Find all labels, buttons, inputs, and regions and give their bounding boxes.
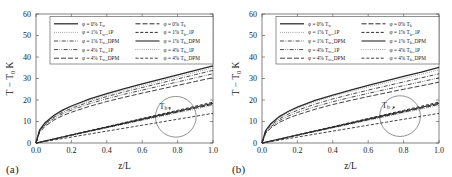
- plot-area-a: 0.00.20.40.60.81.00102030405060z/LT − T0…: [0, 0, 226, 177]
- y-tick-label: 30: [249, 74, 257, 83]
- y-tick-label: 60: [23, 10, 31, 19]
- panel-label-b: (b): [232, 163, 245, 175]
- x-axis-title: z/L: [344, 161, 357, 171]
- panel-label-a: (a): [6, 163, 19, 175]
- figure-two-panel-temperature-plots: 0.00.20.40.60.81.00102030405060z/LT − T0…: [0, 0, 452, 177]
- curve-a-0: [36, 66, 213, 143]
- x-axis-title: z/L: [118, 161, 131, 171]
- x-tick-label: 0.0: [257, 146, 267, 155]
- curve-a-2: [36, 70, 213, 143]
- y-axis-title: T − T0 K: [5, 61, 16, 95]
- curve-b-7: [262, 103, 439, 143]
- annotation-label-tb: Tb: [160, 102, 168, 112]
- y-tick-label: 40: [23, 53, 31, 62]
- x-tick-label: 0.8: [399, 146, 409, 155]
- y-tick-label: 20: [249, 96, 257, 105]
- x-tick-label: 0.4: [328, 146, 338, 155]
- x-tick-label: 1.0: [434, 146, 444, 155]
- y-tick-label: 30: [23, 74, 31, 83]
- x-tick-label: 0.8: [173, 146, 183, 155]
- x-tick-label: 0.6: [137, 146, 147, 155]
- y-tick-label: 0: [27, 139, 31, 148]
- y-tick-label: 50: [23, 31, 31, 40]
- y-tick-label: 10: [249, 117, 257, 126]
- plot-area-b: 0.00.20.40.60.81.00102030405060z/LT − T0…: [226, 0, 452, 177]
- curve-b-0: [262, 67, 439, 143]
- y-tick-label: 10: [23, 117, 31, 126]
- panel-a: 0.00.20.40.60.81.00102030405060z/LT − T0…: [0, 0, 226, 177]
- curve-a-1: [36, 68, 213, 143]
- x-tick-label: 1.0: [208, 146, 218, 155]
- x-tick-label: 0.6: [363, 146, 373, 155]
- y-axis-title: T − T0 K: [231, 61, 242, 95]
- x-tick-label: 0.0: [31, 146, 41, 155]
- curve-a-9: [36, 113, 213, 143]
- annotation-label-tb: Tb: [382, 101, 390, 111]
- x-tick-label: 0.2: [292, 146, 302, 155]
- y-tick-label: 50: [249, 31, 257, 40]
- panel-b: 0.00.20.40.60.81.00102030405060z/LT − T0…: [226, 0, 452, 177]
- x-tick-label: 0.4: [102, 146, 112, 155]
- y-tick-label: 0: [253, 139, 257, 148]
- x-tick-label: 0.2: [66, 146, 76, 155]
- y-tick-label: 40: [249, 53, 257, 62]
- y-tick-label: 20: [23, 96, 31, 105]
- curve-a-7: [36, 103, 213, 143]
- y-tick-label: 60: [249, 10, 257, 19]
